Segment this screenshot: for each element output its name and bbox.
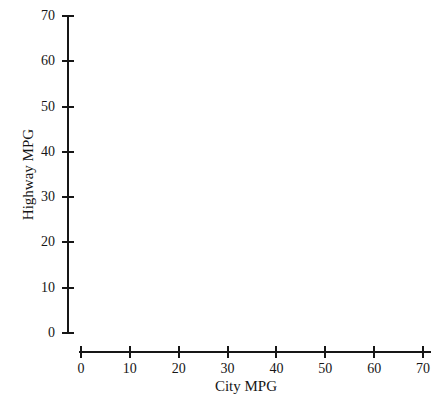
x-axis-tick [80, 346, 82, 358]
y-axis-tick [62, 196, 74, 198]
x-axis-title: City MPG [0, 378, 444, 395]
x-axis-tick-label: 30 [208, 362, 248, 376]
x-axis-tick-label: 50 [305, 362, 345, 376]
x-axis-tick-label: 0 [61, 362, 101, 376]
x-axis-tick-label: 20 [159, 362, 199, 376]
x-axis-tick [227, 346, 229, 358]
y-axis-tick-label: 0 [0, 326, 55, 340]
y-axis-tick-label: 70 [0, 9, 55, 23]
y-axis-tick [62, 241, 74, 243]
y-axis-tick [62, 106, 74, 108]
x-axis-tick [129, 346, 131, 358]
x-axis-tick [373, 346, 375, 358]
x-axis-tick-label: 40 [256, 362, 296, 376]
x-axis-line [79, 351, 431, 353]
y-axis-title: Highway MPG [20, 65, 37, 285]
x-axis-tick-label: 70 [403, 362, 443, 376]
x-axis-title-text: City MPG [215, 378, 277, 395]
y-axis-tick [62, 332, 74, 334]
x-axis-tick [178, 346, 180, 358]
y-axis-tick [62, 60, 74, 62]
x-axis-tick-label: 10 [110, 362, 150, 376]
y-axis-tick [62, 15, 74, 17]
x-axis-tick-label: 60 [354, 362, 394, 376]
x-axis-tick [275, 346, 277, 358]
y-axis-tick [62, 287, 74, 289]
y-axis-tick [62, 151, 74, 153]
plot-area [69, 16, 431, 351]
scatterplot-figure: 010203040506070 010203040506070 Highway … [0, 0, 444, 406]
x-axis-tick [422, 346, 424, 358]
x-axis-tick [324, 346, 326, 358]
